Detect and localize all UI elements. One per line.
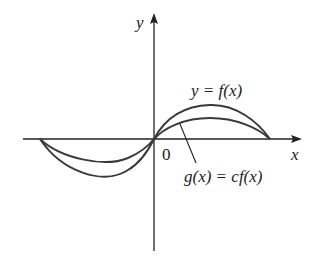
y-axis-label: y [134, 13, 144, 32]
curve-g [40, 118, 270, 162]
curve-g-label: g(x) = cf(x) [184, 167, 263, 186]
curve-f-label: y = f(x) [189, 81, 242, 100]
function-graph: y x 0 y = f(x) g(x) = cf(x) [0, 0, 327, 271]
x-axis-label: x [290, 145, 299, 164]
curve-f [40, 105, 270, 177]
g-label-pointer [180, 124, 196, 163]
origin-label: 0 [162, 145, 171, 164]
